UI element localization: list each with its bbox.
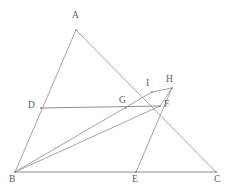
vertex-dot-a xyxy=(75,29,77,31)
geometry-figure: ABCDEFGHI xyxy=(0,0,232,194)
segment-ab xyxy=(15,30,76,172)
segment-ac xyxy=(76,30,216,172)
vertex-dot-d xyxy=(40,107,42,109)
point-label-h: H xyxy=(166,75,173,85)
vertex-dot-f xyxy=(159,105,161,107)
segment-bi xyxy=(15,92,152,172)
point-label-a: A xyxy=(72,11,79,21)
point-label-e: E xyxy=(132,175,138,185)
vertex-dot-b xyxy=(14,171,16,173)
point-label-d: D xyxy=(28,101,35,111)
segment-ih xyxy=(152,88,172,92)
segment-df xyxy=(41,106,160,108)
point-label-f: F xyxy=(164,100,169,110)
vertex-dot-c xyxy=(215,171,217,173)
segments-layer xyxy=(15,30,216,172)
geometry-canvas xyxy=(0,0,232,194)
vertices-layer xyxy=(14,29,217,173)
point-label-g: G xyxy=(119,96,126,106)
point-label-i: I xyxy=(146,79,149,89)
point-label-b: B xyxy=(9,175,15,185)
segment-bf xyxy=(15,106,160,172)
point-label-c: C xyxy=(214,175,220,185)
vertex-dot-h xyxy=(171,87,173,89)
vertex-dot-e xyxy=(135,171,137,173)
vertex-dot-g xyxy=(125,107,127,109)
vertex-dot-i xyxy=(151,91,153,93)
